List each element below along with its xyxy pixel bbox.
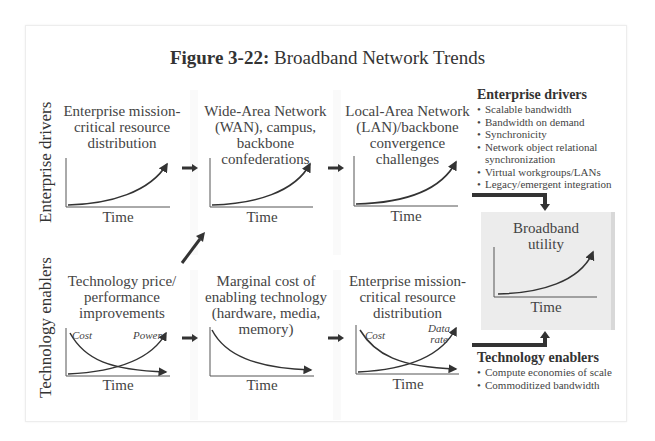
elbow-arrow-up [472,331,550,345]
caption-line: improvements [57,305,187,321]
caption-line: utility [481,236,611,252]
flow-arrow [182,334,198,342]
list-item: Compute economies of scale [477,366,627,379]
x-axis-label: Time [210,209,314,226]
caption-line: Technology price/ [57,273,187,289]
technology-enablers-list: Compute economies of scale Commoditized … [477,366,627,391]
flow-arrow [182,164,198,172]
list-item: Virtual workgroups/LANs [477,166,627,179]
list-item: Bandwidth on demand [477,116,627,129]
caption-line: distribution [345,305,470,321]
list-item: Commoditized bandwidth [477,379,627,392]
caption-line: enabling technology [200,289,332,305]
flow-arrow [328,164,344,172]
top-chart-2 [210,158,313,207]
broadband-utility-caption: Broadband utility [481,220,611,252]
caption-line: Enterprise mission- [345,273,470,289]
list-item: Synchronicity [477,128,627,141]
caption-line: performance [57,289,187,305]
elbow-arrow-down [472,195,550,211]
curve-label-data-rate: Data rate [425,323,453,345]
caption-line: memory) [200,321,332,337]
list-item: Scalable bandwidth [477,103,627,116]
x-axis-label: Time [356,376,460,393]
diagonal-arrow [182,232,205,263]
curve-label-cost: Cost [365,330,385,341]
curve-label-cost: Cost [72,330,92,341]
enterprise-drivers-list: Scalable bandwidth Bandwidth on demand S… [477,103,627,191]
top-chart-1 [66,158,170,207]
caption-line: Marginal cost of [200,273,332,289]
x-axis-label: Time [66,377,170,394]
caption-line: Broadband [481,220,611,236]
x-axis-label: Time [354,208,458,225]
curve-label-power: Power [133,330,162,341]
bottom-panel-1-caption: Technology price/ performance improvemen… [57,273,187,321]
bottom-panel-3-caption: Enterprise mission- critical resource di… [345,273,470,321]
enterprise-drivers-heading: Enterprise drivers [477,87,587,103]
technology-enablers-heading: Technology enablers [477,350,599,366]
list-item: Legacy/emergent integration [477,178,627,191]
top-chart-3 [354,156,458,206]
list-item: Network object relational synchronizatio… [477,141,627,166]
caption-line: critical resource [345,289,470,305]
caption-line: (hardware, media, [200,305,332,321]
x-axis-label: Time [210,377,314,394]
x-axis-label: Time [494,299,598,316]
bottom-panel-2-caption: Marginal cost of enabling technology (ha… [200,273,332,337]
x-axis-label: Time [66,209,170,226]
